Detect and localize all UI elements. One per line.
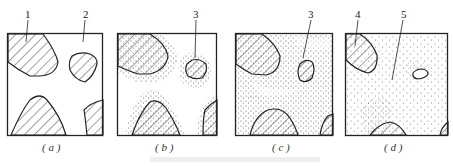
panel-label-b: ( b ): [155, 141, 173, 153]
panel-b: [117, 20, 217, 136]
callout-1: 1: [25, 8, 31, 20]
panel-label-d: ( d ): [384, 141, 402, 153]
callout-2: 2: [83, 8, 89, 20]
figure-caption-illegible: [150, 157, 320, 162]
panel-label-c: ( c ): [272, 141, 290, 153]
callout-3-c: 3: [308, 8, 314, 20]
panel-label-a: ( a ): [42, 141, 60, 153]
callout-4: 4: [355, 8, 361, 20]
callout-5: 5: [401, 8, 407, 20]
panel-a: [8, 20, 104, 136]
callout-3-b: 3: [193, 8, 199, 20]
panel-d: [345, 20, 448, 136]
panel-c: [235, 20, 333, 136]
